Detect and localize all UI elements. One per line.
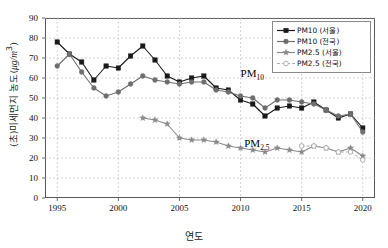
series-3 xyxy=(299,144,365,163)
y-axis-label-text: (초)미세먼지 농도( xyxy=(8,70,19,147)
legend-label: PM10 (전국) xyxy=(297,38,339,46)
x-tick-label: 2010 xyxy=(221,204,261,213)
y-axis-label: (초)미세먼지 농도(μg/m3) xyxy=(5,7,18,183)
y-axis-unit: μg/m xyxy=(9,51,19,70)
legend-label: PM2.5 (전국) xyxy=(297,60,342,68)
legend-item: PM2.5 (서울) xyxy=(275,47,367,58)
x-tick-label: 2020 xyxy=(343,204,383,213)
legend-key-icon xyxy=(275,47,297,58)
annotation-pm25: PM2.5 xyxy=(244,137,269,152)
x-tick-label: 2015 xyxy=(282,204,322,213)
x-tick-label: 2005 xyxy=(159,204,199,213)
legend-item: PM10 (전국) xyxy=(275,36,367,47)
legend-key-icon xyxy=(275,58,297,69)
legend-label: PM10 (서울) xyxy=(297,27,339,35)
x-tick-label: 1995 xyxy=(37,204,77,213)
y-tick-label: 0 xyxy=(4,194,38,203)
chart-figure: 0102030405060708090199520002005201020152… xyxy=(0,0,388,248)
legend-item: PM2.5 (전국) xyxy=(275,58,367,69)
annotation-pm10: PM10 xyxy=(241,67,264,82)
y-axis-unit-exponent: 3 xyxy=(5,46,14,51)
y-axis-label-close: ) xyxy=(8,42,19,46)
legend-key-icon xyxy=(275,36,297,47)
legend-label: PM2.5 (서울) xyxy=(297,49,342,57)
x-tick-label: 2000 xyxy=(98,204,138,213)
chart-legend: PM10 (서울)PM10 (전국)PM2.5 (서울)PM2.5 (전국) xyxy=(272,21,371,73)
x-axis-label: 연도 xyxy=(0,228,388,243)
legend-item: PM10 (서울) xyxy=(275,25,367,36)
legend-key-icon xyxy=(275,25,297,36)
